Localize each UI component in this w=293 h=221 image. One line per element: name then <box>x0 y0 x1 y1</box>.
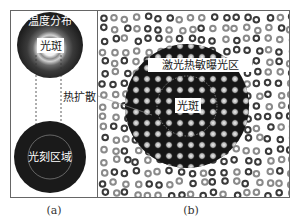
lithography-region-label: 光刻区域 <box>28 150 72 164</box>
panel-a-caption: (a) <box>46 204 61 217</box>
spot-label-b: 光斑 <box>177 99 199 113</box>
panel-b-caption: (b) <box>183 204 199 217</box>
temperature-distribution-label: 温度分布 <box>28 14 72 28</box>
spot-label: 光斑 <box>40 39 62 53</box>
thermal-diffusion-label: 热扩散 <box>63 90 96 104</box>
exposure-region-label: 激光热敏曝光区 <box>162 58 239 72</box>
figure: 光斑 温度分布 热扩散 光刻区域 激光热敏曝光区 光斑 (a) (b) <box>0 0 293 221</box>
